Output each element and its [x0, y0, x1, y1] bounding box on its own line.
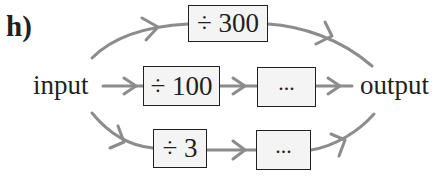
- divide-300-box: ÷ 300: [188, 5, 268, 42]
- input-label: input: [33, 72, 89, 99]
- question-label: h): [6, 12, 32, 41]
- top-arc-in: [92, 24, 188, 58]
- divide-3-box: ÷ 3: [153, 129, 207, 168]
- output-label: output: [360, 72, 429, 99]
- divide-100-box: ÷ 100: [143, 66, 220, 106]
- middle-unknown-box: ...: [257, 67, 316, 107]
- top-arc-out: [268, 24, 372, 66]
- bottom-unknown-box: ...: [256, 130, 311, 170]
- function-machine-diagram: h) input output ÷ 300 ÷ 100 ... ÷ 3 ...: [0, 0, 443, 177]
